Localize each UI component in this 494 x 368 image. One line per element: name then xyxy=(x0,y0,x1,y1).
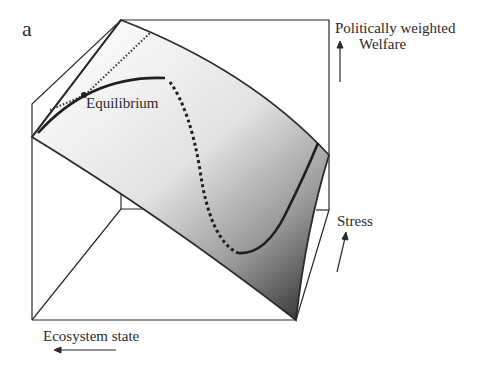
stress-axis-label: Stress xyxy=(337,214,373,229)
welfare-axis-label-line2: Welfare xyxy=(359,37,406,52)
panel-label: a xyxy=(22,18,32,40)
box-floor-diagonal xyxy=(32,209,121,320)
ecosystem-axis-label: Ecosystem state xyxy=(43,329,139,344)
welfare-surface xyxy=(32,20,329,320)
ecosystem-axis-arrow xyxy=(54,347,116,353)
diagram-canvas xyxy=(0,0,494,368)
stress-axis-arrow xyxy=(337,232,348,272)
welfare-axis-arrow xyxy=(337,41,343,82)
welfare-axis-label-line1: Politically weighted xyxy=(335,21,455,36)
equilibrium-label: Equilibrium xyxy=(86,96,159,111)
